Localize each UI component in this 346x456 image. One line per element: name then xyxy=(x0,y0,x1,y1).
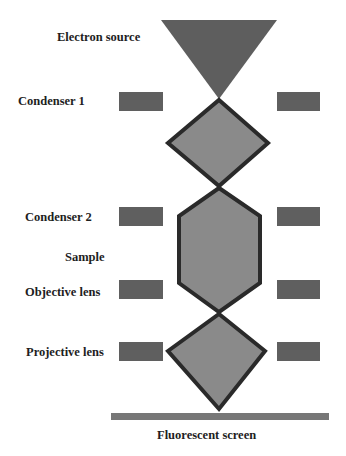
beam-diamond-lower xyxy=(168,314,265,409)
electron-source-triangle xyxy=(161,20,277,99)
microscope-diagram xyxy=(0,0,346,456)
label-condenser-2: Condenser 2 xyxy=(25,211,92,224)
objective-lens-coil-left xyxy=(119,280,163,299)
fluorescent-screen-bar xyxy=(111,413,329,420)
objective-lens-coil-right xyxy=(277,280,320,299)
projective-lens-coil-right xyxy=(277,342,320,361)
label-fluorescent-screen: Fluorescent screen xyxy=(157,429,256,442)
condenser-2-coil-right xyxy=(277,207,320,226)
condenser-1-coil-left xyxy=(119,92,163,111)
beam-hexagon-sample xyxy=(179,188,260,312)
label-projective-lens: Projective lens xyxy=(26,346,104,359)
projective-lens-coil-left xyxy=(119,342,163,361)
label-sample: Sample xyxy=(65,251,105,264)
label-condenser-1: Condenser 1 xyxy=(18,95,85,108)
label-electron-source: Electron source xyxy=(57,31,140,44)
condenser-2-coil-left xyxy=(119,207,163,226)
label-objective-lens: Objective lens xyxy=(25,286,100,299)
condenser-1-coil-right xyxy=(277,92,320,111)
beam-diamond-upper xyxy=(168,100,268,186)
